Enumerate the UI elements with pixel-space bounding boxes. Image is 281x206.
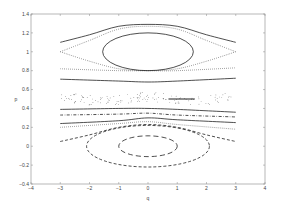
plot-area: [31, 14, 265, 184]
x-tick-label: −1: [116, 185, 122, 191]
y-tick-label: −0.4: [19, 181, 29, 187]
y-tick-label: 0.2: [22, 124, 29, 130]
x-tick-label: 3: [234, 185, 237, 191]
x-tick-label: −4: [28, 185, 34, 191]
y-tick-label: 1.2: [22, 30, 29, 36]
x-tick-label: 0: [147, 185, 150, 191]
x-axis-label: q: [147, 195, 150, 201]
phase-portrait-chart: −4−3−2−101234−0.4−0.200.20.40.60.811.21.…: [0, 0, 281, 206]
y-axis-label: p: [15, 96, 18, 102]
x-tick-label: 1: [176, 185, 179, 191]
y-tick-label: 0.6: [22, 86, 29, 92]
x-tick-label: 2: [205, 185, 208, 191]
x-tick-label: 4: [264, 185, 267, 191]
y-tick-label: 0: [26, 143, 29, 149]
x-tick-label: −3: [57, 185, 63, 191]
y-tick-label: 1.4: [22, 11, 29, 17]
y-tick-label: −0.2: [19, 162, 29, 168]
y-tick-label: 1: [26, 49, 29, 55]
y-tick-label: 0.8: [22, 67, 29, 73]
x-tick-label: −2: [87, 185, 93, 191]
y-tick-label: 0.4: [22, 105, 29, 111]
